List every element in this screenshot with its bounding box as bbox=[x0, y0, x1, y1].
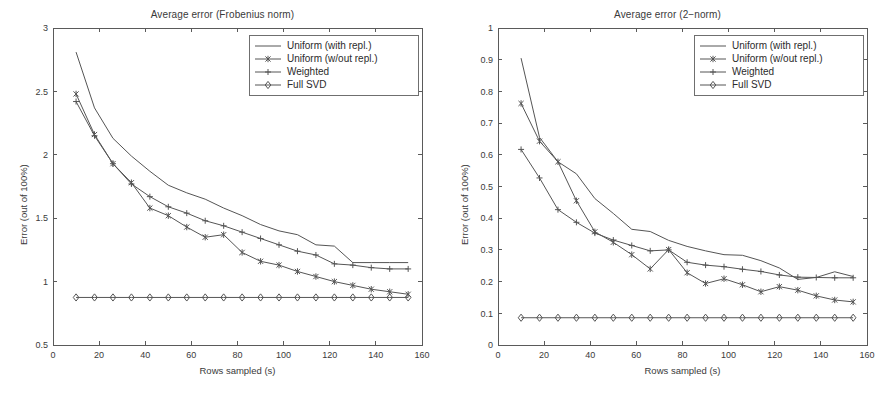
legend-item: Uniform (with repl.) bbox=[254, 39, 412, 52]
legend-item: Uniform (w/out repl.) bbox=[699, 52, 857, 65]
y-tick-label: 0.5 bbox=[35, 340, 48, 350]
x-tick-label: 100 bbox=[721, 350, 736, 360]
legend-marker-plus-icon bbox=[254, 66, 282, 78]
legend-item: Weighted bbox=[699, 65, 857, 78]
x-tick-label: 140 bbox=[368, 350, 383, 360]
y-tick-label: 0.9 bbox=[480, 55, 493, 65]
x-tick-label: 160 bbox=[414, 350, 429, 360]
legend-label: Weighted bbox=[287, 66, 329, 78]
series-full-svd bbox=[518, 314, 856, 321]
y-tick-label: 0.8 bbox=[480, 87, 493, 97]
series-uniform-w-out-repl bbox=[518, 100, 855, 305]
y-tick-label: 0.2 bbox=[480, 277, 493, 287]
legend-label: Uniform (w/out repl.) bbox=[287, 53, 378, 65]
x-tick-label: 140 bbox=[813, 350, 828, 360]
y-tick-label: 0.1 bbox=[480, 309, 493, 319]
y-tick-label: 1.5 bbox=[35, 213, 48, 223]
x-tick-label: 0 bbox=[50, 350, 55, 360]
chart-panel-two-norm: Average error (2−norm)020406080100120140… bbox=[445, 0, 890, 393]
y-tick-label: 1 bbox=[43, 277, 48, 287]
x-tick-label: 40 bbox=[585, 350, 595, 360]
x-tick-label: 120 bbox=[767, 350, 782, 360]
legend-marker-asterisk-icon bbox=[254, 53, 282, 65]
y-tick-label: 0 bbox=[488, 340, 493, 350]
legend-label: Full SVD bbox=[732, 79, 771, 91]
legend-label: Uniform (w/out repl.) bbox=[732, 53, 823, 65]
x-axis-label: Rows sampled (s) bbox=[498, 365, 867, 376]
legend-label: Full SVD bbox=[287, 79, 326, 91]
x-tick-label: 120 bbox=[322, 350, 337, 360]
legend-item: Uniform (with repl.) bbox=[699, 39, 857, 52]
x-tick-label: 100 bbox=[276, 350, 291, 360]
legend-label: Uniform (with repl.) bbox=[287, 40, 371, 52]
x-tick-label: 80 bbox=[232, 350, 242, 360]
y-tick-label: 0.7 bbox=[480, 118, 493, 128]
y-tick-label: 2.5 bbox=[35, 87, 48, 97]
x-tick-label: 60 bbox=[631, 350, 641, 360]
x-tick-label: 0 bbox=[495, 350, 500, 360]
legend-marker-none-icon bbox=[254, 40, 282, 52]
y-tick-label: 3 bbox=[43, 23, 48, 33]
y-tick-label: 1 bbox=[488, 23, 493, 33]
x-tick-label: 40 bbox=[140, 350, 150, 360]
y-tick-label: 0.6 bbox=[480, 150, 493, 160]
legend-label: Weighted bbox=[732, 66, 774, 78]
legend-marker-plus-icon bbox=[699, 66, 727, 78]
series-weighted bbox=[518, 146, 856, 280]
legend-marker-asterisk-icon bbox=[699, 53, 727, 65]
x-axis-label: Rows sampled (s) bbox=[53, 365, 422, 376]
y-tick-label: 0.3 bbox=[480, 245, 493, 255]
x-tick-label: 80 bbox=[677, 350, 687, 360]
legend-label: Uniform (with repl.) bbox=[732, 40, 816, 52]
series-weighted bbox=[73, 99, 411, 272]
legend-marker-diamond-icon bbox=[699, 79, 727, 91]
legend-item: Full SVD bbox=[254, 78, 412, 91]
legend-item: Weighted bbox=[254, 65, 412, 78]
legend-item: Full SVD bbox=[699, 78, 857, 91]
legend-item: Uniform (w/out repl.) bbox=[254, 52, 412, 65]
x-tick-label: 60 bbox=[186, 350, 196, 360]
x-tick-label: 160 bbox=[859, 350, 874, 360]
y-axis-label: Error (out of 100%) bbox=[18, 164, 29, 245]
chart-legend: Uniform (with repl.)Uniform (w/out repl.… bbox=[249, 35, 419, 96]
x-tick-label: 20 bbox=[94, 350, 104, 360]
legend-marker-none-icon bbox=[699, 40, 727, 52]
y-tick-label: 0.4 bbox=[480, 213, 493, 223]
y-tick-label: 0.5 bbox=[480, 182, 493, 192]
chart-legend: Uniform (with repl.)Uniform (w/out repl.… bbox=[694, 35, 864, 96]
y-axis-label: Error (out of 100%) bbox=[459, 164, 470, 245]
x-tick-label: 20 bbox=[539, 350, 549, 360]
figure-two-panel-line-charts: Average error (Frobenius norm)0204060801… bbox=[0, 0, 890, 393]
chart-panel-frobenius: Average error (Frobenius norm)0204060801… bbox=[0, 0, 445, 393]
y-tick-label: 2 bbox=[43, 150, 48, 160]
legend-marker-diamond-icon bbox=[254, 79, 282, 91]
series-full-svd bbox=[73, 294, 411, 301]
